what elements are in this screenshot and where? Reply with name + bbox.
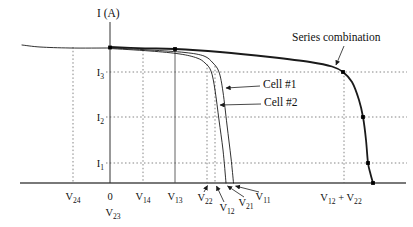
leader-arrow-0 (204, 186, 208, 193)
x-tick-label-6: V12 (219, 202, 234, 216)
series-combination-label-arrow (336, 46, 344, 65)
curve-series-combination (110, 47, 373, 183)
construction-point (366, 161, 370, 165)
x-tick-label-0: V24 (65, 191, 80, 205)
iv-curve-figure: I (A) I3I2I1V240V23V14V13V22V12V21V11V12… (0, 0, 413, 227)
cell-2-label-arrow (220, 104, 261, 105)
curve-reverse-tail (22, 45, 109, 48)
construction-point (108, 46, 112, 50)
x-tick-label-3: V14 (135, 191, 150, 205)
annotations: Series combinationCell #1Cell #2 (220, 31, 381, 108)
construction-point (361, 115, 365, 119)
series-combination-label: Series combination (292, 31, 381, 43)
cell-1-label-arrow (226, 86, 260, 88)
x-tick-label-8: V11 (256, 191, 271, 205)
y-tick-label-2: I1 (97, 158, 105, 172)
x-tick-label-7: V21 (238, 197, 253, 211)
y-tick-label-0: I3 (97, 67, 105, 81)
cell-1-label: Cell #1 (263, 78, 297, 90)
cell-2-label: Cell #2 (264, 96, 298, 108)
x-tick-label-2: V23 (105, 207, 120, 221)
x-tick-label-4: V13 (167, 191, 182, 205)
x-tick-label-5: V22 (197, 192, 212, 206)
iv-curve-canvas: I (A) I3I2I1V240V23V14V13V22V12V21V11V12… (0, 0, 413, 227)
x-tick-label-9: V12 + V22 (320, 192, 362, 206)
y-axis-title: I (A) (97, 7, 120, 20)
construction-point (173, 47, 177, 51)
construction-point-markers (108, 46, 375, 185)
y-tick-label-1: I2 (97, 112, 105, 126)
x-tick-label-1: 0 (107, 191, 112, 202)
construction-guides (73, 47, 407, 183)
iv-curves (22, 45, 373, 183)
leader-arrow-1 (217, 186, 225, 202)
construction-point (371, 181, 375, 185)
construction-point (341, 70, 345, 74)
leader-arrow-3 (236, 186, 260, 192)
